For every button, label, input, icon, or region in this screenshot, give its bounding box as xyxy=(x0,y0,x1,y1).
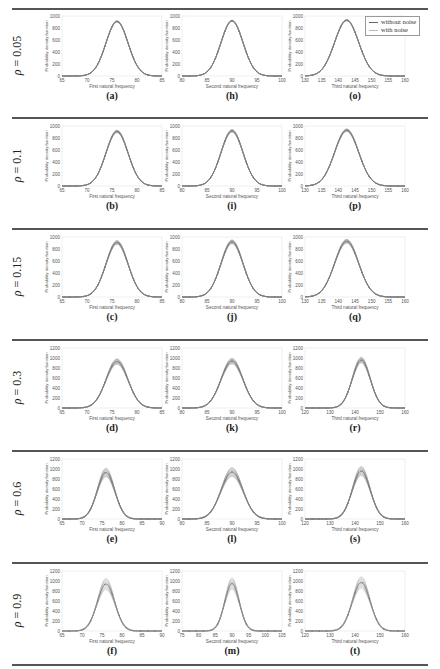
svg-text:600: 600 xyxy=(52,259,60,264)
svg-text:120: 120 xyxy=(301,633,309,638)
svg-text:85: 85 xyxy=(204,410,210,415)
svg-text:400: 400 xyxy=(52,160,60,165)
svg-text:130: 130 xyxy=(301,188,309,193)
svg-text:800: 800 xyxy=(172,366,180,371)
svg-text:80: 80 xyxy=(134,78,140,83)
legend-item-without-noise: without noise xyxy=(369,18,416,26)
svg-text:400: 400 xyxy=(295,50,303,55)
svg-text:70: 70 xyxy=(79,521,85,526)
svg-text:200: 200 xyxy=(295,283,303,288)
svg-text:150: 150 xyxy=(376,521,384,526)
svg-text:120: 120 xyxy=(301,410,309,415)
svg-text:200: 200 xyxy=(295,396,303,401)
panel-sublabel: (h) xyxy=(212,90,252,101)
svg-text:75: 75 xyxy=(109,78,115,83)
svg-text:Probability density function: Probability density function xyxy=(44,241,49,293)
svg-text:160: 160 xyxy=(401,78,409,83)
svg-text:400: 400 xyxy=(52,271,60,276)
svg-text:160: 160 xyxy=(401,188,409,193)
svg-text:1000: 1000 xyxy=(170,14,181,19)
svg-text:85: 85 xyxy=(139,521,145,526)
svg-text:1200: 1200 xyxy=(170,569,181,574)
svg-text:90: 90 xyxy=(229,78,235,83)
svg-text:600: 600 xyxy=(172,487,180,492)
svg-text:85: 85 xyxy=(139,633,145,638)
panel-sublabel: (f) xyxy=(92,645,132,656)
svg-text:145: 145 xyxy=(351,299,359,304)
svg-text:200: 200 xyxy=(172,283,180,288)
svg-text:Probability density function: Probability density function xyxy=(164,463,169,515)
svg-text:160: 160 xyxy=(401,299,409,304)
panel-sublabel: (l) xyxy=(212,533,252,544)
svg-text:75: 75 xyxy=(99,633,105,638)
svg-text:200: 200 xyxy=(172,507,180,512)
svg-text:600: 600 xyxy=(172,599,180,604)
pdf-panel-f: 020040060080010001200657075808590Probabi… xyxy=(42,567,166,653)
svg-text:800: 800 xyxy=(52,477,60,482)
svg-text:130: 130 xyxy=(326,521,334,526)
svg-text:1200: 1200 xyxy=(293,457,304,462)
svg-text:800: 800 xyxy=(52,589,60,594)
svg-text:Third natural frequency: Third natural frequency xyxy=(331,84,379,89)
svg-text:1000: 1000 xyxy=(170,124,181,129)
svg-text:800: 800 xyxy=(52,366,60,371)
legend: without noise with noise xyxy=(365,16,420,36)
svg-text:150: 150 xyxy=(368,188,376,193)
svg-text:80: 80 xyxy=(179,188,185,193)
svg-text:800: 800 xyxy=(172,477,180,482)
rho-label: ρ = 0.05 xyxy=(6,18,30,93)
svg-text:1000: 1000 xyxy=(293,124,304,129)
svg-text:70: 70 xyxy=(79,633,85,638)
svg-text:65: 65 xyxy=(59,521,65,526)
svg-text:65: 65 xyxy=(59,633,65,638)
svg-text:155: 155 xyxy=(384,78,392,83)
svg-text:400: 400 xyxy=(172,386,180,391)
svg-text:1000: 1000 xyxy=(50,579,61,584)
rho-symbol: ρ xyxy=(11,291,25,297)
pdf-panel-e: 020040060080010001200657075808590Probabi… xyxy=(42,455,166,541)
svg-text:135: 135 xyxy=(318,299,326,304)
panel-sublabel: (c) xyxy=(92,311,132,322)
svg-text:85: 85 xyxy=(204,188,210,193)
svg-text:95: 95 xyxy=(254,410,260,415)
panel-sublabel: (j) xyxy=(212,311,252,322)
svg-text:200: 200 xyxy=(52,62,60,67)
svg-text:200: 200 xyxy=(295,172,303,177)
svg-text:200: 200 xyxy=(172,62,180,67)
svg-text:400: 400 xyxy=(295,609,303,614)
legend-item-with-noise: with noise xyxy=(369,26,416,34)
svg-text:200: 200 xyxy=(172,619,180,624)
svg-text:Second natural frequency: Second natural frequency xyxy=(206,639,259,644)
svg-text:95: 95 xyxy=(254,78,260,83)
rho-value: = 0.9 xyxy=(11,594,25,622)
svg-text:120: 120 xyxy=(301,521,309,526)
svg-text:145: 145 xyxy=(351,188,359,193)
svg-text:600: 600 xyxy=(295,148,303,153)
svg-text:160: 160 xyxy=(401,633,409,638)
pdf-panel-p: 02004006008001000130135140145150155160Pr… xyxy=(285,122,409,208)
svg-text:600: 600 xyxy=(295,259,303,264)
svg-text:Probability density function: Probability density function xyxy=(44,463,49,515)
svg-text:Probability density function: Probability density function xyxy=(164,352,169,404)
row-divider xyxy=(12,8,428,10)
svg-text:800: 800 xyxy=(172,26,180,31)
rho-symbol: ρ xyxy=(11,399,25,405)
svg-text:1200: 1200 xyxy=(50,346,61,351)
svg-text:Third natural frequency: Third natural frequency xyxy=(331,639,379,644)
row-divider xyxy=(12,450,428,452)
svg-text:140: 140 xyxy=(334,188,342,193)
panel-sublabel: (d) xyxy=(92,422,132,433)
panel-sublabel: (s) xyxy=(335,533,375,544)
svg-text:Second natural frequency: Second natural frequency xyxy=(206,527,259,532)
svg-text:200: 200 xyxy=(295,507,303,512)
svg-text:1000: 1000 xyxy=(50,124,61,129)
svg-text:800: 800 xyxy=(172,247,180,252)
svg-text:Probability density function: Probability density function xyxy=(44,20,49,72)
svg-text:1000: 1000 xyxy=(293,14,304,19)
svg-text:Third natural frequency: Third natural frequency xyxy=(331,305,379,310)
svg-text:Probability density function: Probability density function xyxy=(164,20,169,72)
svg-text:Probability density function: Probability density function xyxy=(287,575,292,627)
svg-text:130: 130 xyxy=(301,78,309,83)
svg-text:75: 75 xyxy=(109,188,115,193)
svg-text:First natural frequency: First natural frequency xyxy=(89,639,135,644)
